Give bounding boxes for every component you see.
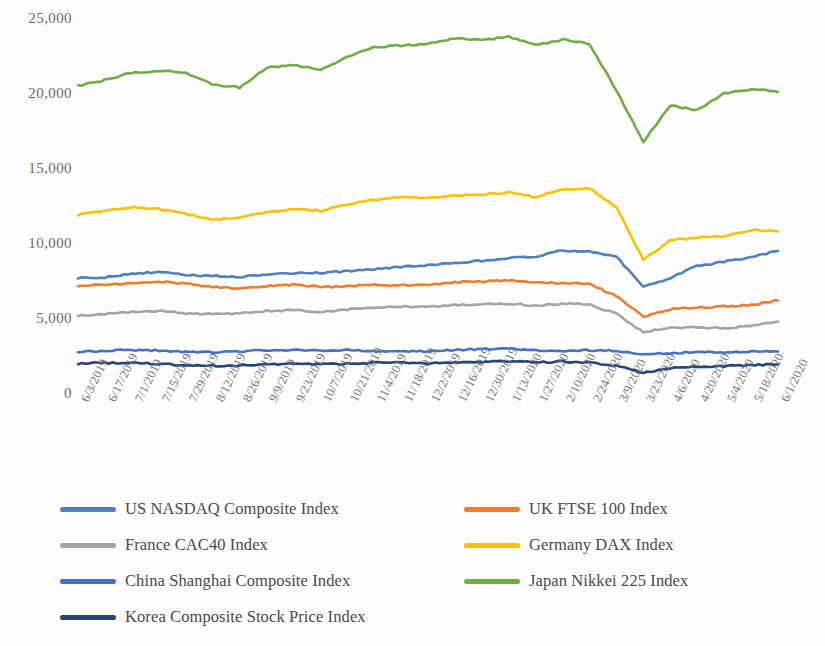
- series-canvas: [78, 20, 778, 395]
- x-axis: 6/3/20196/17/20197/1/20197/15/20197/29/2…: [78, 398, 778, 498]
- legend-item[interactable]: US NASDAQ Composite Index: [60, 498, 339, 520]
- legend-label: France CAC40 Index: [125, 535, 268, 555]
- y-axis-tick-label: 0: [64, 385, 72, 402]
- legend-item[interactable]: France CAC40 Index: [60, 534, 268, 556]
- series-line: [78, 36, 778, 142]
- series-line: [78, 188, 778, 260]
- legend-color-swatch: [60, 579, 116, 584]
- plot-area: [78, 20, 778, 395]
- y-axis-tick-label: 10,000: [28, 235, 72, 252]
- y-axis-tick-label: 5,000: [36, 310, 72, 327]
- legend-item[interactable]: Japan Nikkei 225 Index: [464, 570, 688, 592]
- legend-color-swatch: [464, 543, 520, 548]
- y-axis: 05,00010,00015,00020,00025,000: [0, 0, 72, 420]
- legend-label: US NASDAQ Composite Index: [125, 499, 339, 519]
- legend-label: UK FTSE 100 Index: [529, 499, 668, 519]
- legend-color-swatch: [60, 543, 116, 548]
- legend-item[interactable]: China Shanghai Composite Index: [60, 570, 350, 592]
- legend-color-swatch: [60, 507, 116, 512]
- legend-color-swatch: [60, 615, 116, 620]
- y-axis-tick-label: 25,000: [28, 10, 72, 27]
- series-line: [78, 280, 778, 317]
- y-axis-tick-label: 20,000: [28, 85, 72, 102]
- legend-label: Korea Composite Stock Price Index: [125, 607, 366, 627]
- legend-item[interactable]: Germany DAX Index: [464, 534, 674, 556]
- legend-item[interactable]: Korea Composite Stock Price Index: [60, 606, 366, 628]
- legend-color-swatch: [464, 507, 520, 512]
- stock-index-line-chart: 05,00010,00015,00020,00025,000 6/3/20196…: [0, 0, 825, 646]
- y-axis-tick-label: 15,000: [28, 160, 72, 177]
- chart-legend: US NASDAQ Composite IndexUK FTSE 100 Ind…: [60, 498, 800, 633]
- legend-label: China Shanghai Composite Index: [125, 571, 350, 591]
- legend-item[interactable]: UK FTSE 100 Index: [464, 498, 668, 520]
- series-line: [78, 250, 778, 286]
- legend-label: Japan Nikkei 225 Index: [529, 571, 688, 591]
- legend-color-swatch: [464, 579, 520, 584]
- legend-label: Germany DAX Index: [529, 535, 674, 555]
